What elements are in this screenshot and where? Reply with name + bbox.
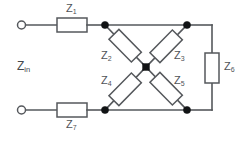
- resistor-z4-body: [109, 73, 141, 106]
- junction-node-upper-right: [183, 21, 190, 28]
- junction-node-center: [143, 64, 150, 71]
- resistor-z1-body: [57, 18, 87, 32]
- label-z3: Z3: [174, 50, 185, 61]
- resistor-z2-body: [109, 29, 141, 62]
- label-z6: Z6: [224, 61, 235, 72]
- resistor-z6-body: [205, 53, 219, 83]
- junction-node-lower-left: [101, 106, 108, 113]
- junction-node-upper-left: [101, 21, 108, 28]
- junction-node-lower-right: [183, 106, 190, 113]
- circuit-diagram: Z1 Z2 Z3 Z4 Z5 Z6 Z7 Zin: [0, 0, 244, 141]
- label-z7: Z7: [66, 119, 77, 130]
- label-z1: Z1: [66, 3, 77, 14]
- label-z2: Z2: [101, 50, 112, 61]
- terminal-bottom-open-circle: [18, 106, 26, 114]
- label-z5: Z5: [174, 75, 185, 86]
- label-z4: Z4: [101, 75, 112, 86]
- label-zin: Zin: [17, 60, 30, 72]
- terminal-top-open-circle: [18, 21, 26, 29]
- resistor-z7-body: [57, 103, 87, 117]
- circuit-schematic-canvas: [0, 0, 244, 141]
